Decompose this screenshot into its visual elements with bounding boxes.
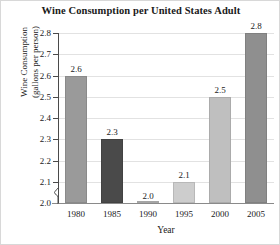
bar[interactable]	[245, 33, 267, 203]
bar-series: 2.62.32.02.12.52.8	[58, 33, 274, 203]
y-axis-tick-label: 2.0	[27, 198, 51, 208]
y-axis-tick-label: 2.8	[27, 28, 51, 38]
x-axis-tick-label: 1995	[175, 209, 193, 219]
bar-value-label: 2.3	[106, 127, 117, 137]
y-axis-tick-label: 2.6	[27, 71, 51, 81]
bar-value-label: 2.8	[250, 21, 261, 31]
x-axis-tick-label: 1990	[139, 209, 157, 219]
x-axis-tick-label: 2000	[211, 209, 229, 219]
chart-figure: Wine Consumption per United States Adult…	[0, 0, 280, 245]
y-axis-tick-label: 2.7	[27, 49, 51, 59]
bar-slot: 2.6	[65, 33, 87, 203]
bar[interactable]	[101, 139, 123, 203]
x-axis-tick-label: 1980	[67, 209, 85, 219]
bar-slot: 2.8	[245, 33, 267, 203]
y-axis-tick-label: 2.5	[27, 92, 51, 102]
bar[interactable]	[137, 201, 159, 203]
y-axis-tick-label: 2.1	[27, 177, 51, 187]
bar[interactable]	[65, 76, 87, 204]
bar-slot: 2.5	[209, 33, 231, 203]
bar-slot: 2.1	[173, 33, 195, 203]
y-axis-tick-label: 2.3	[27, 134, 51, 144]
bar-slot: 2.3	[101, 33, 123, 203]
bar-value-label: 2.0	[142, 191, 153, 201]
x-axis-tick-label: 1985	[103, 209, 121, 219]
y-axis-tick-label: 2.4	[27, 113, 51, 123]
bar-slot: 2.0	[137, 33, 159, 203]
x-axis-tick-label: 2005	[247, 209, 265, 219]
bar-value-label: 2.5	[214, 85, 225, 95]
x-axis-line	[52, 203, 274, 204]
bar-value-label: 2.1	[178, 170, 189, 180]
plot-area: 2.02.12.22.32.42.52.62.72.8 2.62.32.02.1…	[58, 33, 274, 203]
bar[interactable]	[209, 97, 231, 203]
y-axis-tick-label: 2.2	[27, 156, 51, 166]
bar[interactable]	[173, 182, 195, 203]
x-axis-label: Year	[58, 225, 274, 235]
bar-value-label: 2.6	[70, 64, 81, 74]
